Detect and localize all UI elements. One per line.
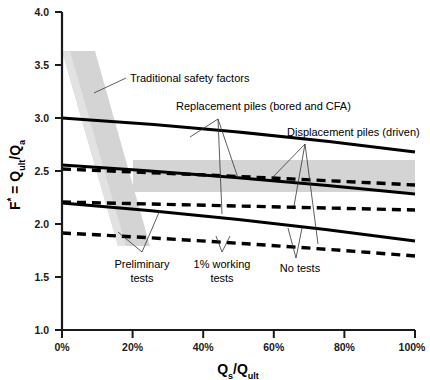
x-tick-label-4: 80% xyxy=(334,341,356,353)
annotation-displacement-piles: Displacement piles (driven) xyxy=(287,126,420,138)
y-tick-label-4: 3.0 xyxy=(34,112,49,124)
chart-svg: 4.0 3.5 3.0 2.5 2.0 1.5 1.0 0% 20% 40% 6… xyxy=(0,0,430,380)
y-title-q2: Q xyxy=(7,145,23,156)
x-tick-label-5: 100% xyxy=(399,341,427,353)
annotation-no-tests-line1: No tests xyxy=(280,262,321,274)
y-tick-label-5: 3.5 xyxy=(34,59,49,71)
y-title-sub1: ult xyxy=(17,160,27,171)
annotation-replacement-piles: Replacement piles (bored and CFA) xyxy=(176,100,351,112)
x-title-q1: Q xyxy=(217,361,228,377)
x-title-sub2: ult xyxy=(248,371,259,380)
x-tick-label-2: 40% xyxy=(193,341,215,353)
chart-figure: 4.0 3.5 3.0 2.5 2.0 1.5 1.0 0% 20% 40% 6… xyxy=(0,0,430,380)
annotation-preliminary-tests-line1: Preliminary xyxy=(114,258,170,270)
y-title-q1: Q xyxy=(7,171,23,182)
x-tick-label-1: 20% xyxy=(122,341,144,353)
y-tick-label-0: 1.0 xyxy=(34,324,49,336)
y-tick-label-2: 2.0 xyxy=(34,218,49,230)
annotation-traditional-safety-factors: Traditional safety factors xyxy=(130,72,250,84)
annotation-working-tests-line2: tests xyxy=(210,272,234,284)
x-title-q2: Q xyxy=(237,361,248,377)
y-tick-label-3: 2.5 xyxy=(34,165,49,177)
y-tick-label-1: 1.5 xyxy=(34,271,49,283)
annotation-preliminary-tests-line2: tests xyxy=(130,272,154,284)
y-tick-label-6: 4.0 xyxy=(34,6,49,18)
annotation-working-tests-line1: 1% working xyxy=(194,258,251,270)
y-title-eq: = xyxy=(7,182,23,198)
x-tick-label-0: 0% xyxy=(54,341,70,353)
x-tick-label-3: 60% xyxy=(263,341,285,353)
